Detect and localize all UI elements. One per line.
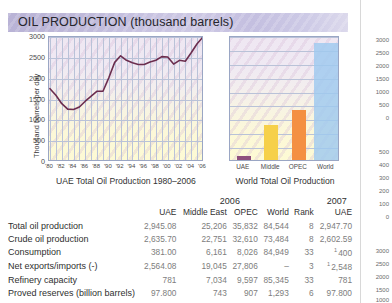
table-cell: 35,832 [231, 219, 262, 232]
x-axis-tick-label: '96 [139, 163, 147, 169]
x-axis-tick-label: '86 [80, 163, 88, 169]
table-cell: 8 [293, 219, 318, 232]
next-page-axis-tick: 3000 [376, 37, 389, 43]
bar-category-label: Middle [261, 163, 280, 170]
table-cell: 781 [142, 273, 180, 286]
next-page-axis-tick: 1000 [376, 89, 389, 95]
next-page-axis-tick: 2000 [376, 274, 389, 280]
x-axis-tick-label: '06 [198, 163, 206, 169]
table-cell: 2,635.70 [142, 232, 180, 245]
next-page-axis-tick: 2500 [376, 50, 389, 56]
next-page-axis-tick: 100 [379, 201, 389, 207]
x-axis-tick-label: '04 [186, 163, 194, 169]
table-cell: 3 [293, 259, 318, 273]
section-banner: OIL PRODUCTION (thousand barrels) [8, 13, 348, 32]
next-page-axis-tick: 1000 [376, 297, 389, 303]
table-row: Consumption381.006,1618,02684,949331400 [8, 245, 356, 259]
next-page-axis-tick: 0 [386, 115, 389, 121]
table-group-header-row: 2006 2007 [8, 196, 356, 207]
table-cell: 19,045 [180, 259, 230, 273]
table-cell: 33 [293, 245, 318, 259]
oil-statistics-table: 2006 2007 UAEMiddle EastOPECWorldRankUAE… [8, 196, 356, 300]
table-cell: 73,484 [262, 232, 293, 245]
x-axis-tick-label: '98 [151, 163, 159, 169]
line-chart-caption: UAE Total Oil Production 1980–2006 [16, 176, 236, 186]
table-body: Total oil production2,945.0825,20635,832… [8, 219, 356, 300]
column-header-blank [8, 207, 142, 219]
table-cell: 32,610 [231, 232, 262, 245]
column-header-uae: UAE [142, 207, 180, 219]
x-axis-tick-label: '00 [163, 163, 171, 169]
table-cell: 97.800 [318, 286, 356, 299]
x-axis-tick-label: '94 [127, 163, 135, 169]
y-axis-tick-label: 3000 [29, 32, 45, 41]
table-column-header-row: UAEMiddle EastOPECWorldRankUAE [8, 207, 356, 219]
bar-chart-caption: World Total Oil Production [226, 176, 344, 186]
table-cell: 2,945.08 [142, 219, 180, 232]
table-cell: 25,206 [180, 219, 230, 232]
x-axis-tick-label: '88 [92, 163, 100, 169]
bar-chart-plot-area [229, 36, 339, 161]
table-cell: 2,564.08 [142, 259, 180, 273]
next-page-axis-tick: 1500 [376, 287, 389, 293]
column-header-rank: Rank [293, 207, 318, 219]
table-cell: 743 [180, 286, 230, 299]
table-cell: 9,597 [231, 273, 262, 286]
table-row: Net exports/imports (-)2,564.0819,04527,… [8, 259, 356, 273]
table-cell: 381.00 [142, 245, 180, 259]
bar-category-label: World [317, 163, 334, 170]
table-cell: 8 [293, 232, 318, 245]
x-axis-tick-label: '90 [104, 163, 112, 169]
table-cell: 907 [231, 286, 262, 299]
bar-category-label: OPEC [289, 163, 307, 170]
next-page-axis-tick: 500 [379, 149, 389, 155]
table-row: Crude oil production2,635.7022,75132,610… [8, 232, 356, 245]
x-axis-tick-label: '02 [175, 163, 183, 169]
table-cell: 12,548 [318, 259, 356, 273]
bar-opec [292, 110, 306, 160]
next-page-axis-tick: 2000 [376, 63, 389, 69]
group-header-2007: 2007 [318, 196, 356, 207]
table-cell: 85,345 [262, 273, 293, 286]
table-cell: 1400 [318, 245, 356, 259]
table-cell: 7,034 [180, 273, 230, 286]
table-cell: 97.800 [142, 286, 180, 299]
next-page-axis-tick: 300 [379, 175, 389, 181]
x-axis-tick-label: '80 [45, 163, 53, 169]
bar-world [314, 43, 339, 160]
bar-uae [237, 156, 251, 160]
group-header-spacer [8, 196, 142, 207]
table-row: Proved reserves (billion barrels)97.8007… [8, 286, 356, 299]
table-row: Total oil production2,945.0825,20635,832… [8, 219, 356, 232]
table-cell: 27,806 [231, 259, 262, 273]
line-chart-series-svg [49, 37, 203, 161]
table-header: 2006 2007 UAEMiddle EastOPECWorldRankUAE [8, 196, 356, 219]
next-page-axis-tick: 400 [379, 162, 389, 168]
bar-category-label: UAE [236, 163, 249, 170]
oil-production-page: OIL PRODUCTION (thousand barrels) 050010… [0, 0, 392, 303]
column-header-opec: OPEC [231, 207, 262, 219]
table-cell: 6,161 [180, 245, 230, 259]
table-cell: 1,293 [262, 286, 293, 299]
next-page-sliver: 3000250020001500100050005004003002001000… [361, 0, 392, 303]
row-label: Net exports/imports (-) [8, 259, 142, 273]
row-label: Consumption [8, 245, 142, 259]
next-page-axis-tick: 500 [379, 102, 389, 108]
footnote-marker: 1 [334, 247, 337, 253]
column-header-middle-east: Middle East [180, 207, 230, 219]
line-chart-plot-area [48, 36, 203, 161]
x-axis-tick-label: '92 [116, 163, 124, 169]
next-page-axis-tick: 200 [379, 188, 389, 194]
group-header-2006: 2006 [142, 196, 318, 207]
column-header-world: World [262, 207, 293, 219]
bar-middle [264, 125, 278, 160]
row-label: Proved reserves (billion barrels) [8, 286, 142, 299]
table-cell: 2,947.70 [318, 219, 356, 232]
table-row: Refinery capacity7817,0349,59785,3453378… [8, 273, 356, 286]
line-chart-y-axis-label: Thousand barrels per day [32, 74, 41, 158]
column-header-uae: UAE [318, 207, 356, 219]
x-axis-tick-label: '82 [57, 163, 65, 169]
table-cell: 781 [318, 273, 356, 286]
row-label: Refinery capacity [8, 273, 142, 286]
footnote-marker: 1 [327, 261, 330, 267]
